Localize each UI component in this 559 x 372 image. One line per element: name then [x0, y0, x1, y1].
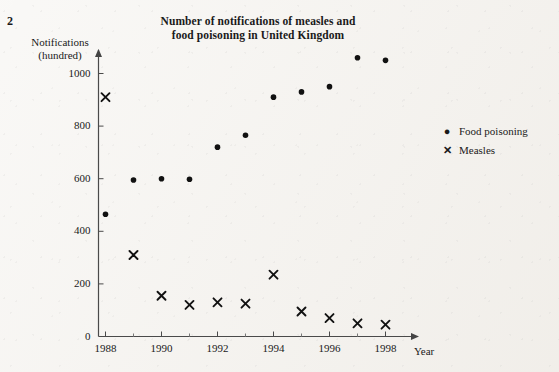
series-food-poisoning — [103, 55, 389, 217]
data-point-food-poisoning — [187, 176, 193, 182]
data-point-measles — [382, 321, 390, 329]
data-point-food-poisoning — [327, 84, 333, 90]
legend-item-food-poisoning: ● Food poisoning — [441, 122, 528, 141]
x-tick-label: 1988 — [84, 342, 128, 354]
chart-legend: ● Food poisoning ✕ Measles — [441, 122, 528, 160]
data-point-measles — [242, 300, 250, 308]
data-point-food-poisoning — [355, 55, 361, 61]
data-point-measles — [214, 298, 222, 306]
data-point-measles — [270, 271, 278, 279]
data-point-measles — [186, 301, 194, 309]
x-tick-label: 1992 — [196, 342, 240, 354]
y-tick-label: 0 — [51, 330, 91, 342]
data-point-food-poisoning — [103, 211, 109, 217]
series-measles — [102, 93, 390, 328]
data-point-measles — [354, 319, 362, 327]
y-tick-label: 200 — [51, 277, 91, 289]
data-point-food-poisoning — [159, 176, 165, 182]
data-point-food-poisoning — [243, 133, 249, 139]
data-point-measles — [298, 308, 306, 316]
data-point-food-poisoning — [215, 144, 221, 150]
data-point-food-poisoning — [299, 89, 305, 95]
data-point-measles — [130, 251, 138, 259]
axes — [99, 50, 419, 337]
x-marker-icon: ✕ — [441, 141, 453, 160]
y-tick-label: 800 — [51, 119, 91, 131]
y-tick-label: 1000 — [51, 67, 91, 79]
scatter-plot-canvas — [0, 0, 559, 372]
y-tick-label: 400 — [51, 224, 91, 236]
x-tick-label: 1998 — [364, 342, 408, 354]
y-tick-label: 600 — [51, 172, 91, 184]
data-point-measles — [326, 314, 334, 322]
x-tick-label: 1990 — [140, 342, 184, 354]
data-point-food-poisoning — [383, 58, 389, 64]
data-point-food-poisoning — [131, 177, 137, 183]
data-point-measles — [102, 93, 110, 101]
x-tick-label: 1996 — [308, 342, 352, 354]
legend-label-measles: Measles — [459, 141, 495, 160]
dot-marker-icon: ● — [441, 122, 453, 141]
legend-item-measles: ✕ Measles — [441, 141, 528, 160]
data-point-measles — [158, 292, 166, 300]
x-tick-label: 1994 — [252, 342, 296, 354]
legend-label-food-poisoning: Food poisoning — [459, 122, 528, 141]
data-point-food-poisoning — [271, 94, 277, 100]
